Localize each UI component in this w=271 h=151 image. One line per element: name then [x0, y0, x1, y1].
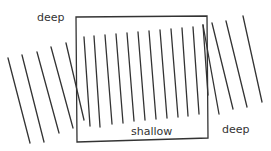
wavefront-line — [149, 31, 156, 119]
label-deep-left: deep — [37, 12, 65, 23]
wavefront-line — [8, 58, 30, 143]
wavefront-line — [116, 34, 123, 123]
wavefront-line — [182, 28, 188, 116]
wavefront-line — [243, 16, 262, 102]
wavefront-line — [171, 29, 178, 117]
label-deep-right: deep — [222, 124, 250, 135]
wavefront-line — [84, 37, 90, 126]
wavefront-line — [105, 35, 112, 124]
wavefront-line — [127, 33, 134, 121]
shallow-water-wavefronts — [84, 25, 208, 127]
wavefront-line — [193, 27, 199, 114]
wavefront-line — [94, 36, 100, 127]
wavefront-line — [203, 25, 219, 114]
deep-water-wavefronts-right — [203, 16, 262, 114]
wavefront-line — [66, 43, 84, 120]
wavefront-line — [160, 30, 167, 118]
deep-water-wavefronts-left — [8, 43, 84, 143]
label-shallow: shallow — [131, 126, 172, 137]
wavefront-line — [138, 32, 145, 120]
